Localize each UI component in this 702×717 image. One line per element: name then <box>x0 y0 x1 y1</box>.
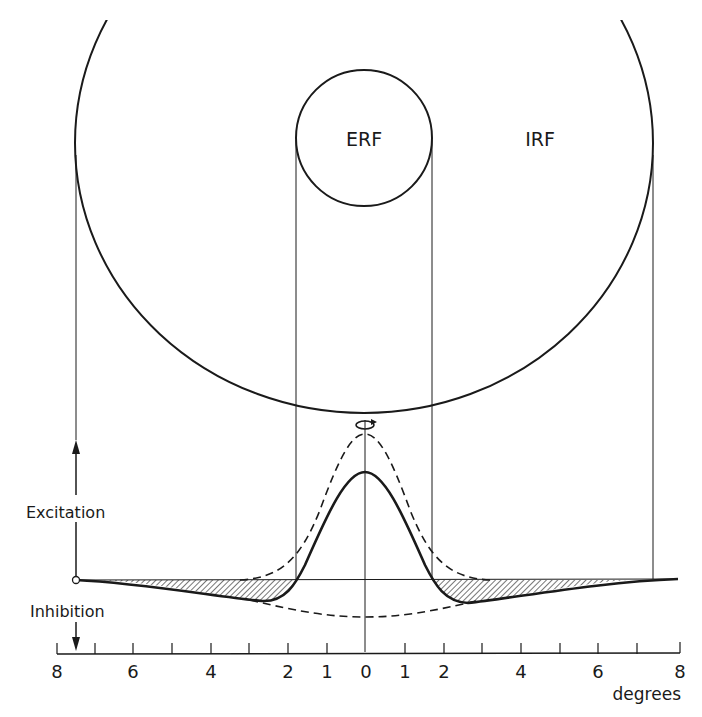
receptive-field-diagram: Excitation Inhibition ERF IRF 8 6 4 <box>0 0 702 717</box>
rotation-icon <box>356 419 377 429</box>
tick-label: 0 <box>360 661 371 682</box>
tick-label: 6 <box>592 661 603 682</box>
erf-label: ERF <box>346 128 382 150</box>
tick-label: 2 <box>438 661 449 682</box>
inhibition-label: Inhibition <box>30 602 105 621</box>
diagram-canvas: Excitation Inhibition ERF IRF 8 6 4 <box>0 0 702 717</box>
x-axis-unit-label: degrees <box>613 684 682 704</box>
tick-label: 4 <box>205 661 216 682</box>
inhibition-hatch-left <box>100 580 296 601</box>
tick-label: 1 <box>399 661 410 682</box>
irf-label: IRF <box>525 128 555 150</box>
baseline <box>76 579 678 580</box>
excitation-label: Excitation <box>26 503 105 522</box>
tick-label: 2 <box>282 661 293 682</box>
inhibition-hatch-right <box>432 580 628 603</box>
up-arrow-icon <box>72 440 80 454</box>
x-axis: 8 6 4 2 1 0 1 2 4 6 8 degrees <box>51 642 685 704</box>
tick-label: 4 <box>515 661 526 682</box>
origin-marker <box>73 577 80 584</box>
tick-label: 8 <box>674 661 685 682</box>
tick-label: 8 <box>51 661 62 682</box>
tick-label: 6 <box>127 661 138 682</box>
tick-label: 1 <box>321 661 332 682</box>
down-arrow-icon <box>72 637 80 651</box>
